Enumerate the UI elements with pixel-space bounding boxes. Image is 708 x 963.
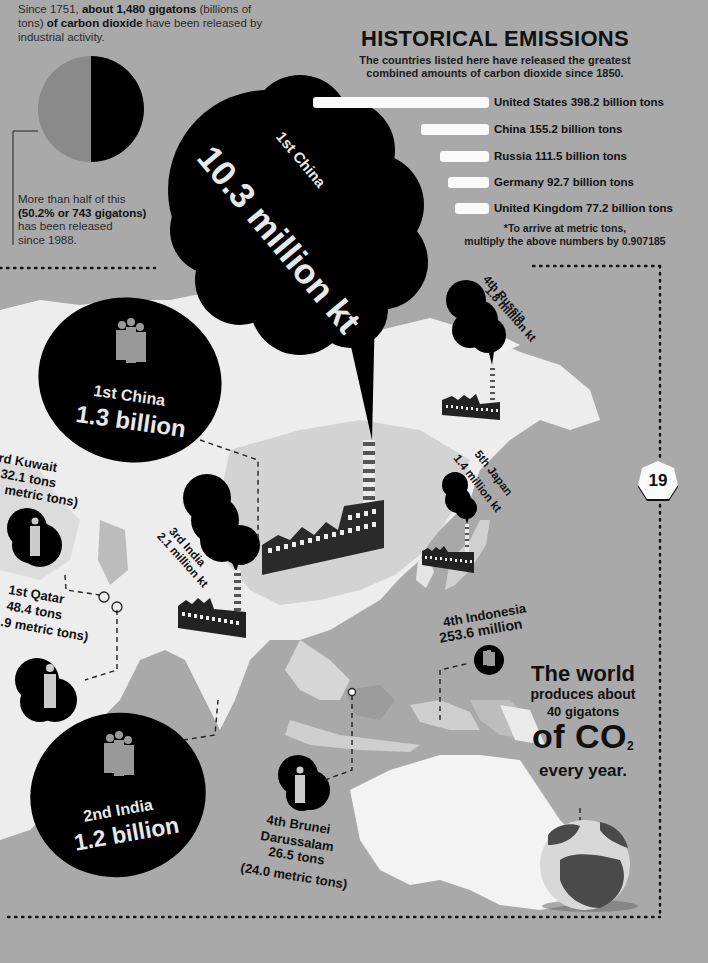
people-icon-india: [104, 731, 134, 776]
people-icon-china: [116, 318, 146, 363]
intro-prefix: Since 1751,: [18, 3, 82, 15]
bar-row-germany: Germany 92.7 billion tons: [448, 176, 668, 188]
bar-label-china: China 155.2 billion tons: [494, 123, 668, 135]
brunei-location-pin: [349, 689, 356, 696]
pie-note-share: (50.2% or 743 gigatons): [18, 207, 146, 219]
bar-row-china: China 155.2 billion tons: [421, 123, 668, 135]
world-co2-subscript: 2: [627, 739, 634, 753]
world-co2-statement: The world produces about 40 gigatons of …: [508, 662, 658, 780]
historical-emissions-title: HISTORICAL EMISSIONS: [330, 26, 660, 52]
subtitle-line1: The countries listed here have released …: [330, 54, 660, 67]
bar-label-united-kingdom: United Kingdom 77.2 billion tons: [494, 202, 668, 214]
bar-germany: [448, 177, 489, 188]
bar-label-russia: Russia 111.5 billion tons: [494, 150, 668, 162]
bar-row-united-kingdom: United Kingdom 77.2 billion tons: [455, 202, 668, 214]
world-co-text: of CO: [532, 717, 627, 755]
globe-icon: [540, 820, 638, 912]
bar-russia: [440, 151, 489, 162]
subtitle-line2: combined amounts of carbon dioxide since…: [330, 67, 660, 80]
bar-united-kingdom: [455, 203, 489, 214]
note-line1: *To arrive at metric tons,: [440, 222, 690, 235]
world-line4: of CO2: [508, 720, 658, 762]
intro-co2: of carbon dioxide: [47, 17, 143, 29]
bar-row-united-states: United States 398.2 billion tons: [313, 96, 668, 108]
bar-united-states: [313, 97, 489, 108]
bar-label-germany: Germany 92.7 billion tons: [494, 176, 668, 188]
note-line2: multiply the above numbers by 0.907185: [440, 235, 690, 248]
intro-total-gigatons: about 1,480 gigatons: [82, 3, 196, 15]
infographic-page: Since 1751, about 1,480 gigatons (billio…: [0, 0, 708, 963]
historical-emissions-subtitle: The countries listed here have released …: [330, 54, 660, 80]
world-line2: produces about: [508, 686, 658, 703]
pie-note-line4: since 1988.: [18, 234, 158, 248]
bar-china: [421, 124, 489, 135]
metric-conversion-note: *To arrive at metric tons, multiply the …: [440, 222, 690, 248]
bar-row-russia: Russia 111.5 billion tons: [440, 150, 668, 162]
page-number-badge: 19: [636, 459, 680, 503]
world-line1: The world: [508, 662, 658, 686]
people-icon-indonesia: [483, 650, 495, 666]
page-number: 19: [649, 471, 668, 491]
pie-note-line3: has been released: [18, 220, 158, 234]
world-line5: every year.: [508, 762, 658, 780]
pie-note: More than half of this (50.2% or 743 gig…: [18, 193, 158, 247]
pie-chart: [38, 56, 144, 162]
bar-label-united-states: United States 398.2 billion tons: [494, 96, 668, 108]
intro-text: Since 1751, about 1,480 gigatons (billio…: [18, 2, 278, 44]
pie-note-line1: More than half of this: [18, 193, 158, 207]
